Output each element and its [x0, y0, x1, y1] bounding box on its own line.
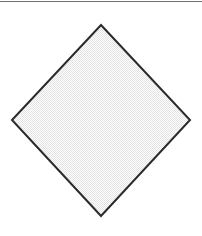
- diamond-shape: [12, 25, 190, 216]
- figure-canvas: [0, 0, 202, 236]
- diamond-figure: [0, 0, 202, 236]
